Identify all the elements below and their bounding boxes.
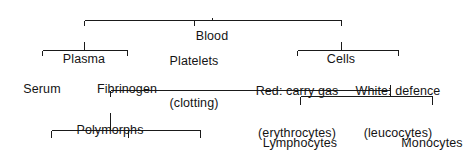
node-fibrinogen-line-1: Fibrinogen bbox=[97, 83, 157, 97]
node-white-cells-line-1: White: defence bbox=[356, 84, 441, 98]
node-platelets-line-1: Platelets bbox=[170, 54, 219, 68]
node-polymorphs-line-1: Polymorphs bbox=[77, 124, 144, 138]
node-serum-line-1: Serum bbox=[23, 83, 60, 97]
node-serum: Serum bbox=[23, 56, 60, 124]
node-neutrophils: Neutrophils bbox=[19, 139, 83, 159]
node-red-cells-line-1: Red: carry gas bbox=[256, 84, 339, 98]
node-eosinophils: Eosinophils bbox=[167, 139, 232, 159]
node-lymphocytes-line-1: Lymphocytes bbox=[263, 137, 337, 151]
node-lymphocytes: Lymphocytes bbox=[263, 110, 337, 159]
blood-hierarchy-diagram: Blood Plasma Platelets (clotting) Cells … bbox=[0, 0, 473, 159]
node-basiphils: Basiphils bbox=[103, 139, 154, 159]
node-platelets-line-2: (clotting) bbox=[170, 96, 219, 110]
node-platelets: Platelets (clotting) bbox=[170, 26, 219, 138]
node-monocytes: Monocytes bbox=[401, 110, 462, 159]
node-monocytes-line-1: Monocytes bbox=[401, 137, 462, 151]
